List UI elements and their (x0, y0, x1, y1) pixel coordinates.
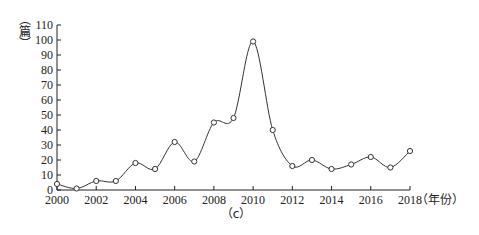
line-chart: 0102030405060708090100110 20002002200420… (0, 0, 479, 235)
y-tick-label: 20 (41, 153, 53, 167)
data-point-marker (349, 162, 354, 167)
x-tick-label: 2004 (123, 193, 147, 207)
data-point-marker (54, 181, 59, 186)
data-point-marker (388, 165, 393, 170)
data-point-marker (211, 120, 216, 125)
y-tick-label: 30 (41, 138, 53, 152)
data-point-marker (407, 148, 412, 153)
plot-area (54, 39, 412, 191)
x-tick-label: 2000 (45, 193, 69, 207)
data-point-marker (192, 159, 197, 164)
x-axis-title: （年份） (416, 193, 464, 207)
data-point-marker (329, 166, 334, 171)
data-point-marker (113, 178, 118, 183)
x-tick-label: 2012 (280, 193, 304, 207)
y-axis-title: ︶ (19, 37, 31, 51)
data-point-marker (251, 39, 256, 44)
data-point-marker (231, 115, 236, 120)
data-point-marker (270, 127, 275, 132)
x-tick-label: 2016 (359, 193, 383, 207)
data-point-marker (290, 163, 295, 168)
y-axis: 0102030405060708090100110 (35, 18, 61, 197)
data-point-marker (152, 166, 157, 171)
x-axis: 2000200220042006200820102012201420162018 (45, 186, 422, 207)
x-tick-label: 2006 (163, 193, 187, 207)
y-tick-label: 100 (35, 33, 53, 47)
x-tick-label: 2008 (202, 193, 226, 207)
figure-caption: （c） (221, 207, 252, 221)
x-tick-label: 2014 (320, 193, 344, 207)
y-tick-label: 110 (35, 18, 53, 32)
data-point-marker (133, 160, 138, 165)
y-tick-label: 40 (41, 123, 53, 137)
y-tick-label: 90 (41, 48, 53, 62)
y-tick-label: 80 (41, 63, 53, 77)
data-point-marker (309, 157, 314, 162)
y-tick-label: 70 (41, 78, 53, 92)
y-tick-label: 10 (41, 168, 53, 182)
data-point-marker (74, 186, 79, 191)
data-point-marker (368, 154, 373, 159)
x-tick-label: 2002 (84, 193, 108, 207)
data-point-marker (172, 139, 177, 144)
data-point-marker (94, 178, 99, 183)
y-tick-label: 60 (41, 93, 53, 107)
y-tick-label: 50 (41, 108, 53, 122)
x-tick-label: 2010 (241, 193, 265, 207)
